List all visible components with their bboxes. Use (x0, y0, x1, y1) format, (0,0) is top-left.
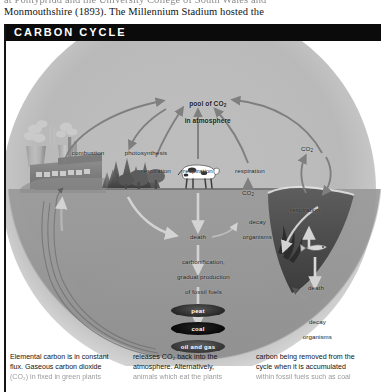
label-co2-land: CO2 (236, 189, 260, 198)
fossil-fuel-peat: peat (171, 304, 225, 317)
caption-c3-line-1: carbon being removed from the (256, 352, 374, 362)
label-respiration-animals: respiration (228, 167, 272, 174)
caption-column-2: releases CO₂ back into the atmosphere. A… (133, 352, 251, 382)
caption-c2-line-3: animals which eat the plants (133, 372, 251, 382)
label-decay-organisms-ocean: decay organisms (289, 311, 335, 348)
caption-c1-line-2: flux. Gaseous carbon dioxide (10, 362, 128, 372)
caption-column-3: carbon being removed from the cycle when… (256, 352, 374, 382)
caption-c3-line-2: cycle when it is accumulated (256, 362, 374, 372)
fossil-fuel-coal: coal (171, 322, 225, 335)
figure-title: CARBON CYCLE (14, 26, 127, 38)
label-respiration-soil: respiration (176, 167, 220, 174)
label-decay-organisms-land: decay organisms (231, 211, 273, 248)
label-pool-of-co2: pool of CO2 in atmosphere (166, 93, 238, 132)
figure-caption: Elemental carbon is in constant flux. Ga… (4, 352, 381, 392)
caption-c3-line-3: within fossil fuels such as coal (256, 372, 374, 382)
label-death-ocean: death (296, 284, 336, 291)
label-combustion: combustion (62, 149, 114, 156)
caption-c2-line-2: atmosphere. Alternatively, (133, 362, 251, 372)
body-text-line-2: Monmouthshire (1893). The Millennium Sta… (4, 6, 379, 18)
caption-column-1: Elemental carbon is in constant flux. Ga… (10, 352, 128, 382)
label-respiration-plants: respiration (134, 167, 178, 174)
label-carbonification: carbonification, gradual production of f… (154, 251, 242, 303)
diagram-canvas: pool of CO2 in atmosphere combustion pho… (6, 41, 381, 366)
figure-header-bar: CARBON CYCLE (6, 24, 381, 41)
page-body-text-above-figure: at Pontypridd and the University College… (0, 0, 385, 22)
label-photosynthesis: photosynthesis (116, 149, 176, 156)
caption-c2-line-1: releases CO₂ back into the (133, 352, 251, 362)
label-death-land: death (178, 233, 218, 240)
carbon-cycle-figure: CARBON CYCLE (4, 24, 381, 392)
caption-c1-line-1: Elemental carbon is in constant (10, 352, 128, 362)
label-co2-ocean: CO2 (295, 145, 319, 154)
caption-c1-line-3: (CO₂) in fixed in green plants (10, 372, 128, 382)
body-text-line-1: at Pontypridd and the University College… (4, 0, 379, 6)
label-respiration-ocean: respiration (282, 206, 328, 213)
